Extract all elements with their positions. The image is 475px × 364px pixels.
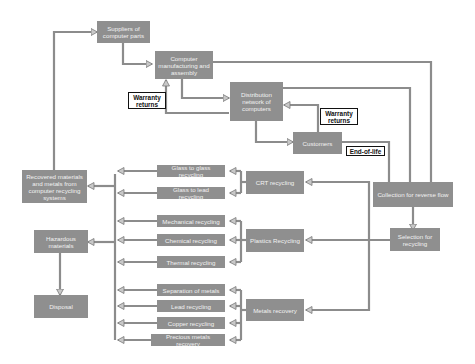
node-copper: Copper recycling — [157, 317, 225, 329]
node-distribution: Distribution network of computers — [230, 82, 283, 121]
node-glass-to-glass: Glass to glass recycling — [157, 165, 225, 177]
arrow-manufacturers-to-distribution — [182, 78, 229, 98]
arrow-recovered-to-suppliers — [54, 32, 97, 170]
node-lead: Lead recycling — [157, 300, 225, 312]
node-plastics-recycling: Plastics Recycling — [246, 229, 304, 252]
tag-warranty-returns-distribution: Warranty returns — [320, 108, 358, 125]
node-chemical: Chemical recycling — [157, 234, 225, 246]
node-thermal: Thermal recycling — [157, 256, 225, 268]
arrow-warranty-to-manufacturers — [166, 80, 229, 113]
arrow-suppliers-to-manufacturers — [123, 43, 152, 64]
node-selection: Selection for recycling — [390, 228, 440, 251]
node-mechanical: Mechanical recycling — [157, 215, 225, 227]
tag-end-of-life: End-of-life — [346, 146, 385, 156]
node-hazardous-materials: Hazardous materials — [34, 230, 88, 253]
node-manufacturers: Computer manufacturing and assembly — [155, 51, 213, 79]
node-separation: Separation of metals — [157, 284, 225, 296]
node-precious-metals: Precious metals recovery — [151, 334, 225, 346]
tag-warranty-returns-manufacturer: Warranty returns — [128, 92, 166, 109]
node-disposal: Disposal — [34, 295, 88, 318]
arrow-distribution-to-customers — [256, 121, 293, 142]
arrow-selection-to-crt — [306, 182, 369, 240]
arrow-selection-to-metals — [306, 240, 369, 310]
node-collection: Collection for reverse flow — [373, 182, 453, 207]
arrow-warranty-to-distribution — [284, 105, 318, 133]
node-recovered-materials: Recovered materials and metals from comp… — [22, 170, 87, 203]
node-metals-recovery: Metals recovery — [246, 299, 304, 321]
node-customers: Customers — [293, 132, 342, 154]
node-glass-to-lead: Glass to lead recycling — [157, 187, 225, 199]
node-suppliers: Suppliers of computer parts — [97, 21, 150, 43]
node-crt-recycling: CRT recycling — [246, 171, 304, 194]
